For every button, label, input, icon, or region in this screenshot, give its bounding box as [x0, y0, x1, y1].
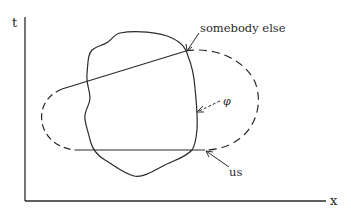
phi-pointer — [197, 101, 220, 112]
somebody-else-label: somebody else — [200, 21, 286, 35]
spacetime-diagram: t x somebody else us φ — [0, 0, 351, 216]
us-pointer — [206, 151, 229, 167]
somebody-else-pointer — [187, 33, 199, 51]
x-axis-label: x — [330, 193, 338, 208]
left-dashed-arc — [42, 89, 75, 150]
phi-arrowhead-icon — [197, 106, 204, 112]
axes — [25, 17, 326, 201]
somebody-else-worldline — [62, 51, 186, 89]
us-label: us — [229, 165, 242, 179]
phi-label: φ — [223, 95, 231, 108]
t-axis-label: t — [12, 15, 18, 30]
